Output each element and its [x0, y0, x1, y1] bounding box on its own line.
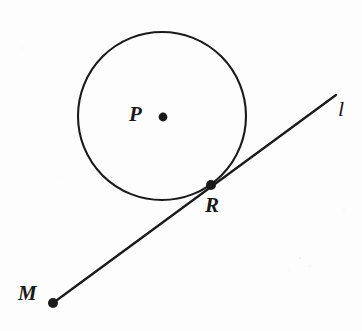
label-point-m: M [18, 283, 37, 304]
label-line-l: l [338, 98, 344, 120]
label-point-p: P [129, 104, 142, 125]
tangent-line-l [53, 95, 336, 303]
point-dot-m [48, 298, 58, 308]
label-point-r: R [205, 195, 219, 216]
point-dot-p [159, 113, 168, 122]
geometry-figure: P R M l [0, 0, 362, 331]
geometry-canvas [0, 0, 362, 331]
point-dot-r [206, 180, 216, 190]
